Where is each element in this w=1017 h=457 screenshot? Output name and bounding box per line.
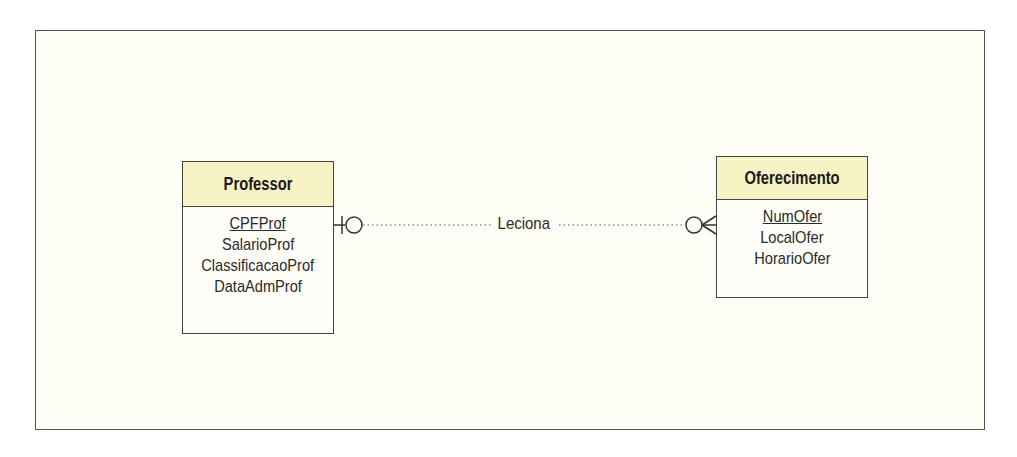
attribute-list: NumOfer LocalOfer HorarioOfer [717, 200, 867, 269]
entity-header: Oferecimento [717, 157, 867, 200]
cardinality-many-crowsfoot-icon [702, 216, 716, 234]
entity-title: Oferecimento [744, 168, 839, 189]
entity-header: Professor [183, 162, 333, 207]
attribute-primary-key: NumOfer [762, 206, 821, 227]
attribute: ClassificacaoProf [202, 255, 315, 276]
attribute: LocalOfer [760, 227, 823, 248]
attribute: DataAdmProf [214, 276, 302, 297]
cardinality-zero-circle-icon [686, 217, 702, 233]
entity-professor[interactable]: Professor CPFProf SalarioProf Classifica… [182, 161, 334, 334]
cardinality-zero-circle-icon [346, 217, 362, 233]
entity-oferecimento[interactable]: Oferecimento NumOfer LocalOfer HorarioOf… [716, 156, 868, 298]
attribute-list: CPFProf SalarioProf ClassificacaoProf Da… [183, 207, 333, 297]
attribute-primary-key: CPFProf [230, 213, 286, 234]
attribute: SalarioProf [222, 234, 294, 255]
entity-title: Professor [224, 174, 293, 195]
attribute: HorarioOfer [754, 248, 830, 269]
relationship-label: Leciona [497, 214, 551, 234]
